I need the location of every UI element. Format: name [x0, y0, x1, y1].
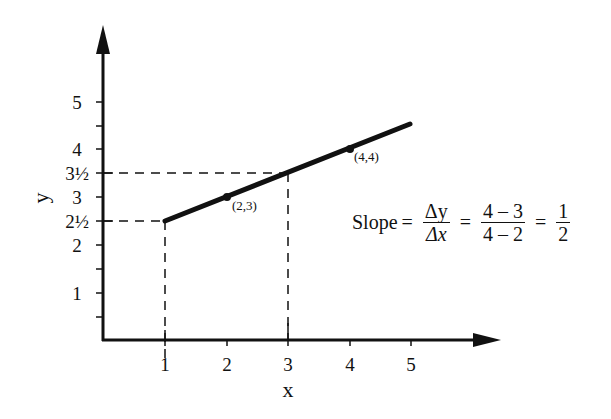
y-axis-label: y — [28, 193, 53, 204]
svg-text:4: 4 — [72, 139, 82, 160]
result-numerator: 1 — [556, 200, 570, 222]
x-tick-labels: 1 2 3 4 5 — [160, 354, 416, 375]
svg-text:4: 4 — [345, 354, 355, 375]
slope-formula: Slope = Δy Δx = 4 – 3 4 – 2 = 1 2 — [352, 200, 576, 245]
point-label-2-3: (2,3) — [232, 198, 257, 213]
equals-sign: = — [460, 211, 471, 234]
slope-word: Slope — [352, 211, 398, 234]
y-axis-arrow-icon — [96, 25, 110, 54]
svg-text:5: 5 — [406, 354, 416, 375]
point-4-4 — [346, 145, 354, 153]
point-2-3 — [223, 193, 231, 201]
svg-text:2: 2 — [222, 354, 232, 375]
value-fraction: 4 – 3 4 – 2 — [481, 200, 525, 245]
svg-text:1: 1 — [72, 283, 82, 304]
svg-text:3: 3 — [72, 187, 82, 208]
y-tick-labels: 5 4 3½ 3 2½ 2 1 — [65, 92, 89, 304]
svg-text:2½: 2½ — [65, 211, 89, 232]
svg-text:3½: 3½ — [65, 163, 89, 184]
result-fraction: 1 2 — [556, 200, 570, 245]
numerator: 4 – 3 — [481, 200, 525, 222]
equals-sign: = — [535, 211, 546, 234]
x-axis-arrow-icon — [473, 333, 501, 347]
result-denominator: 2 — [556, 223, 570, 245]
svg-text:2: 2 — [72, 235, 82, 256]
svg-text:1: 1 — [160, 354, 170, 375]
svg-text:3: 3 — [283, 354, 293, 375]
delta-fraction: Δy Δx — [423, 200, 450, 245]
equals-sign: = — [402, 211, 413, 234]
point-label-4-4: (4,4) — [354, 149, 379, 164]
svg-text:5: 5 — [72, 92, 82, 113]
x-axis-label: x — [283, 377, 294, 402]
dashed-guides — [103, 173, 288, 358]
denominator: 4 – 2 — [481, 223, 525, 245]
delta-x: Δx — [424, 223, 449, 245]
delta-y: Δy — [423, 200, 450, 222]
